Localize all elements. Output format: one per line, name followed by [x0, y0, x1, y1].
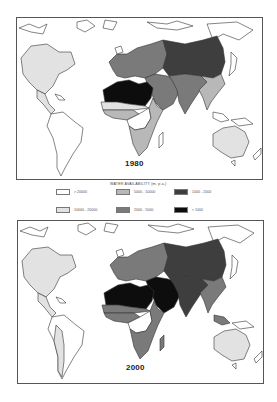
- region-south-america-andes: [54, 325, 64, 377]
- legend-label: 2000 - 5000: [134, 208, 153, 212]
- map-1980: 1980: [16, 17, 263, 180]
- arctic-island: [103, 20, 117, 30]
- region-australia: [213, 126, 249, 158]
- region-central-america: [38, 293, 56, 317]
- legend-swatch: [56, 189, 70, 195]
- region-central-asia-china: [163, 36, 225, 78]
- legend-swatch: [116, 207, 130, 213]
- map-2000: 2000: [17, 220, 264, 384]
- british-isles: [116, 249, 124, 257]
- tasmania: [232, 363, 236, 369]
- legend-item-10000-20000: 10000 - 20000: [56, 206, 97, 214]
- new-zealand: [253, 148, 261, 160]
- region-central-america: [37, 90, 55, 114]
- region-europe: [109, 40, 167, 78]
- british-isles: [115, 46, 123, 54]
- indonesia: [214, 315, 230, 325]
- legend: WATER AVAILABILITY (m³ p.a.) > 20000 100…: [50, 178, 240, 218]
- map-year-label: 1980: [125, 159, 144, 168]
- new-zealand: [254, 351, 262, 363]
- arctic-island: [20, 227, 48, 237]
- madagascar: [160, 335, 164, 351]
- arctic-coast: [147, 21, 193, 30]
- region-south-america: [47, 112, 83, 176]
- arctic-island: [19, 24, 47, 34]
- region-north-america: [22, 247, 76, 297]
- tasmania: [231, 160, 235, 166]
- world-map-1980: [17, 18, 262, 179]
- greenland: [78, 223, 96, 235]
- region-australia: [214, 329, 250, 361]
- legend-item-1000-2000: 1000 - 2000: [174, 188, 211, 196]
- legend-label: 1000 - 2000: [192, 190, 211, 194]
- legend-swatch: [174, 189, 188, 195]
- region-central-asia-china: [164, 239, 226, 281]
- region-south-america: [48, 315, 84, 379]
- caribbean: [56, 297, 66, 303]
- legend-label: 5000 - 10000: [134, 190, 155, 194]
- legend-label: < 1000: [192, 208, 203, 212]
- caribbean: [55, 94, 65, 100]
- japan: [230, 255, 238, 279]
- legend-label: > 20000: [74, 190, 87, 194]
- legend-item-lt1000: < 1000: [174, 206, 203, 214]
- map-year-label: 2000: [126, 363, 145, 372]
- arctic-island: [104, 223, 118, 233]
- region-europe: [110, 243, 168, 281]
- new-guinea: [231, 118, 253, 126]
- world-map-2000: [18, 221, 263, 383]
- greenland: [77, 20, 95, 32]
- legend-swatch: [174, 207, 188, 213]
- madagascar: [159, 132, 163, 148]
- legend-title: WATER AVAILABILITY (m³ p.a.): [110, 182, 167, 186]
- legend-item-gt20000: > 20000: [56, 188, 87, 196]
- indonesia: [213, 112, 229, 122]
- legend-swatch: [116, 189, 130, 195]
- new-guinea: [232, 321, 254, 329]
- legend-item-2000-5000: 2000 - 5000: [116, 206, 153, 214]
- japan: [229, 52, 237, 76]
- legend-item-5000-10000: 5000 - 10000: [116, 188, 155, 196]
- legend-label: 10000 - 20000: [74, 208, 97, 212]
- legend-swatch: [56, 207, 70, 213]
- region-north-america: [21, 44, 75, 94]
- arctic-coast: [148, 224, 194, 233]
